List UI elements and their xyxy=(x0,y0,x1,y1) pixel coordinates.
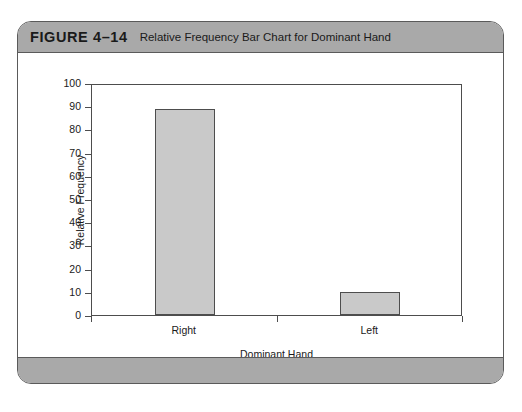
x-axis-tick xyxy=(462,316,463,322)
y-axis-tick-label: 80 xyxy=(53,124,81,135)
y-axis-tick-label: 100 xyxy=(53,78,81,89)
bar-right xyxy=(155,109,215,315)
figure-card: FIGURE 4–14 Relative Frequency Bar Chart… xyxy=(17,21,504,384)
plot-frame xyxy=(91,84,462,316)
x-axis-label-left: Left xyxy=(277,325,463,336)
y-axis-tick-label: 50 xyxy=(53,194,81,205)
x-axis-tick xyxy=(91,316,92,322)
y-axis-tick-label: 90 xyxy=(53,101,81,112)
y-axis-tick-label: 30 xyxy=(53,240,81,251)
x-axis-label-right: Right xyxy=(91,325,277,336)
bar-left xyxy=(340,292,400,315)
figure-header: FIGURE 4–14 Relative Frequency Bar Chart… xyxy=(18,22,503,53)
y-axis-tick-label: 20 xyxy=(53,264,81,275)
bar-chart: Relative Frequency 010203040506070809010… xyxy=(18,53,503,357)
figure-number-label: FIGURE 4–14 xyxy=(30,29,128,45)
figure-body: Relative Frequency 010203040506070809010… xyxy=(18,53,503,357)
figure-footer xyxy=(18,357,503,383)
y-axis-tick-label: 10 xyxy=(53,287,81,298)
y-axis-tick-label: 70 xyxy=(53,148,81,159)
y-axis-tick-label: 0 xyxy=(53,310,81,321)
figure-caption-label: Relative Frequency Bar Chart for Dominan… xyxy=(140,31,391,43)
x-axis-tick xyxy=(277,316,278,322)
y-axis-tick-label: 60 xyxy=(53,171,81,182)
y-axis-tick-label: 40 xyxy=(53,217,81,228)
